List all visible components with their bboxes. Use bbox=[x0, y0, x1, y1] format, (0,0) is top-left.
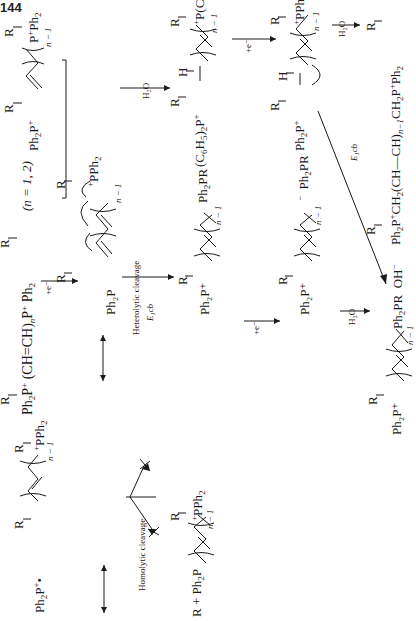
reaction-scheme: R R Ph2P+ P+Ph2 n − 1 R R Ph2P+• +PPh2 n… bbox=[0, 0, 416, 621]
saturated-r2: R bbox=[364, 22, 377, 31]
anion-r: R bbox=[276, 276, 289, 285]
hydrated-left: (C6H5)2P+ bbox=[192, 114, 209, 167]
homolytic-label: Homolytic cleavage bbox=[138, 519, 147, 591]
homolytic-r: R bbox=[168, 512, 181, 521]
e1cb-arrow bbox=[318, 111, 386, 284]
reduced-n: n − 1 bbox=[312, 11, 321, 31]
reduction-label-2: +e⁻ bbox=[252, 321, 261, 335]
hydration-label: H₂O bbox=[142, 83, 151, 99]
hydrated-right: +P(C6H5)2 bbox=[192, 0, 209, 25]
top-radical-n: n − 1 bbox=[44, 27, 53, 47]
reduced-left: Ph2P+ bbox=[292, 120, 309, 151]
left-radical-n: n − 1 bbox=[46, 441, 55, 461]
heterolytic-r: R bbox=[176, 276, 189, 285]
heterolytic-right: Ph2PR bbox=[196, 169, 212, 203]
left-radical-left: Ph2P+• bbox=[32, 578, 49, 613]
central-r2: R bbox=[54, 180, 67, 189]
homolytic-n: n − 1 bbox=[206, 509, 215, 529]
ylide-left: Ph₂P⁺ bbox=[390, 403, 403, 435]
start-formula: Ph2P+ (CH=CH)nP+ Ph2 bbox=[20, 283, 37, 415]
heterolytic-left: Ph₂P⁺ bbox=[198, 283, 211, 315]
anion-n: n − 1 bbox=[314, 205, 323, 225]
saturated-r1: R bbox=[364, 226, 377, 235]
reduced-r: R bbox=[268, 102, 281, 111]
start-r2: R bbox=[0, 239, 11, 248]
top-radical-right: P+Ph2 bbox=[26, 12, 43, 43]
top-radical-r: R bbox=[2, 104, 15, 113]
ylide-r: R bbox=[366, 396, 379, 405]
hydration-label-3: H₂O bbox=[338, 21, 347, 37]
left-radical-r2: R bbox=[12, 444, 25, 453]
top-radical-r2: R bbox=[2, 28, 15, 37]
bracket bbox=[62, 60, 66, 198]
hydrated-r2: R bbox=[168, 18, 181, 27]
top-radical-left: Ph2P+ bbox=[26, 120, 43, 151]
anion-left: Ph₂P⁺ bbox=[298, 283, 311, 315]
start-condition: (n = 1, 2) bbox=[20, 161, 33, 211]
central-left: Ph₂P bbox=[104, 290, 117, 316]
heterolytic-n: n − 1 bbox=[214, 205, 223, 225]
central-n: n − 1 bbox=[114, 183, 123, 203]
heterolytic-label: Heterolytic cleavage bbox=[132, 261, 141, 335]
homolytic-product-left: R + Ph2P bbox=[190, 569, 206, 617]
chain-top bbox=[26, 49, 38, 89]
hydrated-r: R bbox=[168, 98, 181, 107]
anion-right: − Ph2PR bbox=[296, 155, 313, 201]
hydrated-h: H bbox=[176, 68, 189, 77]
ylide-right: Ph2PR OH− bbox=[390, 265, 407, 330]
left-radical-r: R bbox=[12, 520, 25, 529]
e1cb-label: E₁cb bbox=[350, 144, 359, 161]
start-r1: R bbox=[0, 396, 11, 405]
central-r: R bbox=[54, 274, 67, 283]
saturated-formula: Ph2P+CH2(CH—CH)n−1CH2P+Ph2 bbox=[388, 66, 405, 245]
central-right: +PPh2 bbox=[86, 156, 103, 187]
heterolytic-e1cb: E₁cb bbox=[146, 304, 155, 321]
reduced-h: H bbox=[276, 72, 289, 81]
ylide-n: n − 1 bbox=[406, 325, 415, 345]
reduction-label-3: +e⁻ bbox=[244, 39, 253, 53]
reduction-label-1: +e⁻ bbox=[44, 281, 53, 295]
hydration-label-2: H₂O bbox=[348, 309, 357, 325]
reduced-r2: R bbox=[268, 16, 281, 25]
hydrated-n: n − 1 bbox=[210, 13, 219, 33]
reduced-right: +PPh2 bbox=[292, 0, 309, 25]
